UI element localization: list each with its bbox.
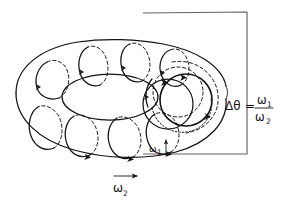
figure-root: ω 1 ω 2 Δθ = ω 1 ω 2 (0, 0, 287, 202)
cross-section-circles-back (36, 43, 189, 99)
cross-section-circle (79, 46, 108, 86)
measurement-bracket (143, 12, 247, 154)
cross-section-circle (121, 43, 150, 82)
equals-sign: = (245, 99, 255, 113)
cross-section-circle (36, 60, 69, 99)
cross-section-circle (143, 79, 193, 129)
torus-diagram: ω 1 ω 2 Δθ = ω 1 ω 2 (0, 0, 287, 202)
fraction-denominator: ω (255, 110, 265, 124)
cross-section-circles-right-cluster (143, 61, 218, 133)
cross-section-circle (65, 115, 98, 160)
fraction-numerator: ω (257, 93, 267, 107)
fraction-denominator-subscript: 2 (266, 117, 271, 126)
cross-section-circle (160, 74, 212, 126)
omega2-vector: ω 2 (113, 176, 137, 198)
omega1-inner-label: ω (149, 144, 157, 154)
omega1-inner-subscript: 1 (157, 148, 162, 157)
cross-section-circle (29, 106, 62, 150)
delta-theta-label: Δθ (225, 99, 241, 113)
omega2-label: ω (113, 181, 123, 195)
omega2-subscript: 2 (123, 189, 128, 198)
cross-section-circle (108, 117, 141, 162)
delta-theta-annotation: Δθ = ω 1 ω 2 (225, 93, 273, 126)
